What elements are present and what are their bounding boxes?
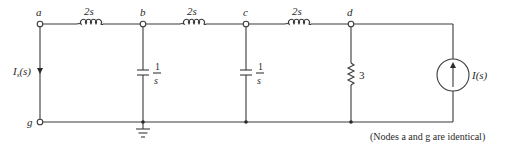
inductor-cd: 2s [285, 5, 311, 25]
capacitor-b: 1 s [137, 27, 161, 122]
node-a [37, 21, 43, 27]
short-current-label: Is(s) [12, 65, 31, 79]
current-source: I(s) [437, 24, 488, 122]
ground-icon [136, 122, 150, 137]
arrow-down-icon [37, 68, 43, 74]
node-d [348, 21, 354, 27]
junction-dot [244, 120, 248, 124]
inductor-cd-label: 2s [292, 5, 302, 17]
inductor-bc: 2s [180, 5, 206, 25]
node-c [243, 21, 249, 27]
capacitor-c-num: 1 [258, 61, 263, 72]
node-d-label: d [347, 6, 353, 18]
note-text: (Nodes a and g are identical) [370, 131, 485, 143]
node-c-label: c [243, 6, 248, 18]
junction-dot [349, 120, 353, 124]
capacitor-b-den: s [154, 75, 158, 86]
capacitor-c-den: s [257, 75, 261, 86]
inductor-ab: 2s [77, 5, 103, 25]
capacitor-c: 1 s [240, 27, 264, 122]
node-b [140, 21, 146, 27]
arrow-up-icon [450, 62, 456, 68]
junction-dot [141, 120, 145, 124]
node-g [37, 119, 43, 125]
circuit-diagram: Is(s) 2s 2s 2s 1 s 1 s 3 [0, 0, 510, 149]
current-source-label: I(s) [471, 69, 488, 82]
resistor-d: 3 [348, 27, 365, 122]
capacitor-b-num: 1 [155, 61, 160, 72]
inductor-bc-label: 2s [187, 5, 197, 17]
circuit-svg: Is(s) 2s 2s 2s 1 s 1 s 3 [0, 0, 510, 149]
short-circuit-branch: Is(s) [12, 27, 43, 119]
resistor-d-label: 3 [359, 69, 365, 81]
inductor-ab-label: 2s [84, 5, 94, 17]
node-a-label: a [36, 6, 42, 18]
node-g-label: g [27, 116, 33, 128]
node-b-label: b [140, 6, 146, 18]
